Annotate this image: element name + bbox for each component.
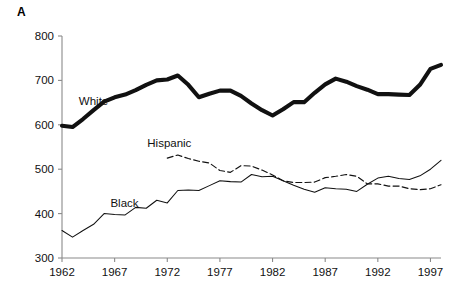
y-tick-label: 800 [35,30,54,42]
x-tick-label: 1977 [207,266,233,278]
y-tick-label: 600 [35,119,54,131]
x-tick-label: 1992 [365,266,391,278]
y-axis-ticks: 300400500600700800 [35,30,62,264]
series-line-white [62,65,441,127]
figure-container: A 300400500600700800 1962196719721977198… [0,0,450,293]
x-tick-label: 1972 [154,266,180,278]
x-tick-label: 1967 [102,266,128,278]
series-line-hispanic [167,155,441,190]
chart-series-group [62,65,441,237]
y-tick-label: 700 [35,74,54,86]
x-tick-label: 1962 [49,266,75,278]
series-label-black: Black [110,197,138,209]
y-tick-label: 500 [35,163,54,175]
series-inline-labels: WhiteBlackHispanic [79,95,192,209]
y-tick-label: 400 [35,208,54,220]
x-tick-label: 1982 [260,266,286,278]
line-chart: 300400500600700800 196219671972197719821… [0,0,450,293]
x-axis-ticks: 19621967197219771982198719921997 [49,258,443,278]
chart-axes [62,36,441,258]
series-label-hispanic: Hispanic [147,137,191,149]
y-tick-label: 300 [35,252,54,264]
x-tick-label: 1997 [418,266,444,278]
series-label-white: White [79,95,108,107]
x-tick-label: 1987 [312,266,338,278]
